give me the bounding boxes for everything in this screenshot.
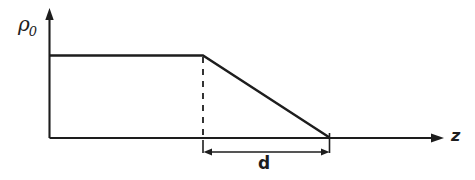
dimension-arrow-left-icon — [204, 149, 213, 156]
density-profile-figure: ρ0 z d — [0, 0, 475, 180]
figure-canvas — [0, 0, 475, 180]
y-axis-label-subscript: 0 — [29, 24, 37, 39]
dimension-arrow-right-icon — [321, 149, 330, 156]
y-axis-label-symbol: ρ — [18, 12, 30, 36]
y-axis-arrow-icon — [45, 8, 53, 20]
x-axis-arrow-icon — [431, 134, 444, 143]
density-profile-curve — [50, 56, 330, 138]
distance-label: d — [258, 155, 270, 172]
x-axis-label: z — [451, 128, 460, 144]
y-axis-label: ρ0 — [18, 14, 37, 38]
